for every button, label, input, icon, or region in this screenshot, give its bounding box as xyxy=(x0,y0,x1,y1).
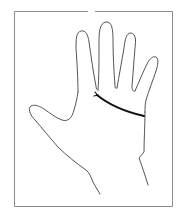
palm-diagram xyxy=(0,0,183,219)
hand-outline xyxy=(29,22,158,194)
thumb-outline xyxy=(29,92,100,194)
index-finger-outline xyxy=(76,31,98,92)
ring-finger-outline xyxy=(117,33,136,91)
frame xyxy=(15,12,173,207)
heart-line xyxy=(94,92,144,116)
pinky-finger-outline xyxy=(135,57,158,112)
middle-finger-outline xyxy=(98,22,117,90)
palm-edge-outline xyxy=(139,112,148,185)
